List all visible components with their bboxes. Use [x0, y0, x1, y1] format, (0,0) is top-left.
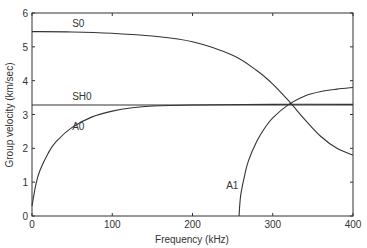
y-tick-label: 0 [22, 211, 28, 222]
curve-labels: S0SH0A0A1 [72, 18, 239, 191]
label-s0: S0 [72, 18, 85, 29]
y-tick-label: 2 [22, 143, 28, 154]
label-a0: A0 [72, 121, 85, 132]
x-tick-label: 100 [104, 219, 121, 230]
y-axis-ticks: 0123456 [22, 8, 353, 222]
y-tick-label: 6 [22, 8, 28, 19]
y-tick-label: 1 [22, 177, 28, 188]
y-tick-label: 4 [22, 76, 28, 87]
group-velocity-chart: 0100200300400 0123456 S0SH0A0A1 Frequenc… [0, 0, 367, 248]
curve-a1 [239, 87, 353, 216]
x-tick-label: 200 [184, 219, 201, 230]
y-axis-label: Group velocity (km/sec) [4, 62, 15, 167]
x-tick-label: 0 [29, 219, 35, 230]
label-sh0: SH0 [72, 91, 92, 102]
x-tick-label: 400 [345, 219, 362, 230]
x-tick-label: 300 [264, 219, 281, 230]
x-axis-label: Frequency (kHz) [155, 234, 229, 245]
y-tick-label: 5 [22, 42, 28, 53]
plot-frame [32, 13, 353, 216]
label-a1: A1 [226, 180, 239, 191]
y-tick-label: 3 [22, 110, 28, 121]
